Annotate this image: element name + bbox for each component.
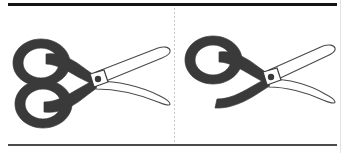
lower-blade bbox=[269, 79, 335, 103]
pivot-screw bbox=[268, 74, 274, 80]
lower-handle-ring bbox=[15, 80, 72, 128]
lower-blade bbox=[96, 81, 170, 105]
scissors-left-illustration bbox=[8, 8, 174, 142]
figure-canvas: Open scissors shown in full with two dar… bbox=[0, 0, 347, 153]
panel-scissors-open-complete bbox=[8, 8, 174, 142]
upper-handle-ring bbox=[13, 39, 70, 86]
panel-scissors-open-occluded bbox=[175, 8, 337, 142]
pivot-screw bbox=[95, 76, 101, 82]
upper-handle-ring bbox=[185, 36, 242, 84]
top-rule bbox=[8, 3, 337, 6]
right-edge-line bbox=[340, 0, 341, 153]
scissors-right-illustration bbox=[175, 8, 337, 142]
bottom-rule bbox=[8, 144, 337, 146]
